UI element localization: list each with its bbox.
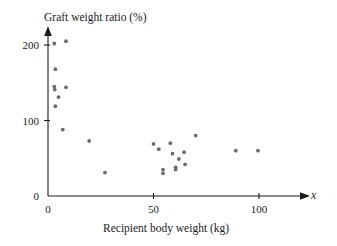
data-point xyxy=(52,42,56,46)
data-point xyxy=(174,168,178,172)
data-point xyxy=(53,67,57,71)
data-point xyxy=(157,147,161,151)
x-axis-group xyxy=(48,192,310,200)
x-tick-label: 50 xyxy=(139,204,169,215)
x-axis-arrow-icon xyxy=(300,192,310,200)
data-point xyxy=(152,142,156,146)
data-point xyxy=(53,88,57,92)
data-point xyxy=(64,85,68,89)
y-tick-label: 200 xyxy=(9,40,39,51)
data-point xyxy=(87,139,91,143)
x-tick-label: 100 xyxy=(244,204,274,215)
x-axis-variable-symbol: x xyxy=(311,190,316,202)
data-point xyxy=(256,149,260,153)
y-axis-arrow-icon xyxy=(44,26,52,36)
data-point xyxy=(183,162,187,166)
data-point xyxy=(171,152,175,156)
data-point xyxy=(53,104,57,108)
data-point xyxy=(177,157,181,161)
y-tick-label: 100 xyxy=(9,116,39,127)
x-axis-title: Recipient body weight (kg) xyxy=(103,223,229,235)
y-axis-group xyxy=(44,26,52,196)
data-point xyxy=(168,141,172,145)
data-point xyxy=(194,134,198,138)
x-tick-label: 0 xyxy=(33,204,63,215)
scatter-plot-figure: Graft weight ratio (%) 0100200 050100 Re… xyxy=(0,0,337,246)
data-point xyxy=(182,150,186,154)
data-points-group xyxy=(52,39,259,175)
data-point xyxy=(64,39,68,43)
data-point xyxy=(103,171,107,175)
data-point xyxy=(161,168,165,172)
y-tick-label: 0 xyxy=(9,191,39,202)
data-point xyxy=(161,171,165,175)
data-point xyxy=(234,149,238,153)
data-point xyxy=(61,128,65,132)
y-tick-marks xyxy=(44,45,50,121)
data-point xyxy=(57,95,61,99)
